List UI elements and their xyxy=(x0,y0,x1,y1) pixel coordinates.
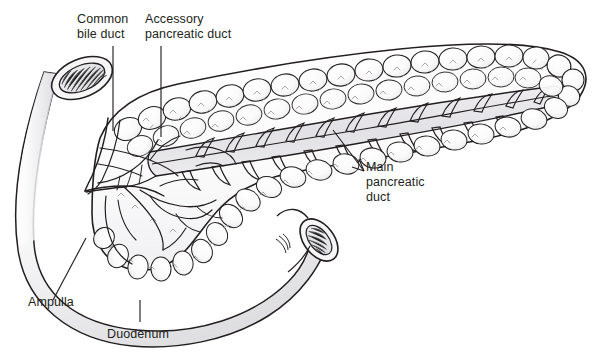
label-accessory-pancreatic-duct: Accessory pancreatic duct xyxy=(145,12,231,42)
label-common-bile-duct: Common bile duct xyxy=(77,12,128,42)
duodenum-upper-shading xyxy=(17,72,58,246)
duodenum-right-limb xyxy=(277,209,308,218)
label-ampulla: Ampulla xyxy=(28,295,74,310)
duodenum-wrinkles xyxy=(276,234,290,253)
label-duodenum: Duodenum xyxy=(107,327,169,342)
duodenum-cut-end-left xyxy=(45,48,119,108)
ampulla-leader xyxy=(53,238,86,300)
anatomy-figure: Common bile duct Accessory pancreatic du… xyxy=(0,0,603,364)
label-main-pancreatic-duct: Main pancreatic duct xyxy=(366,160,425,205)
anatomy-illustration xyxy=(0,0,603,364)
